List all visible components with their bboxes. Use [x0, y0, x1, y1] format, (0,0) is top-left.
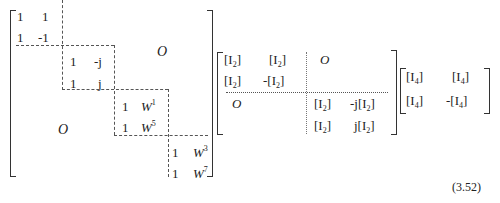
m1-b3-r2-c1: 1: [122, 121, 129, 134]
m1-b1-r2-c2: -1: [38, 31, 49, 44]
matrix-2-right-bracket: [391, 50, 397, 135]
m2-r4-c4: j[I2]: [354, 119, 375, 132]
m1-b4-r1-c1: 1: [172, 146, 179, 159]
m1-b3-r1-c2: W1: [141, 100, 156, 113]
m1-zero-lower: O: [58, 123, 68, 137]
w-symbol: W: [141, 99, 152, 114]
m1-dash-h2: [62, 89, 168, 90]
m1-b4-r2-c1: 1: [172, 167, 179, 180]
w-symbol: W: [193, 145, 204, 160]
m2-r1-c1: [I2]: [224, 53, 241, 66]
m1-b2-r1-c2: -j: [94, 55, 102, 68]
w-symbol: W: [141, 120, 152, 135]
m3-r1-c2: [I4]: [452, 70, 469, 83]
m2-r2-c1: [I2]: [224, 74, 241, 87]
m1-b4-r2-c2: W7: [193, 167, 208, 180]
m1-b2-r1-c1: 1: [70, 55, 77, 68]
w-exponent: 5: [152, 119, 156, 128]
m1-b1-r1-c1: 1: [17, 10, 24, 23]
m1-zero-upper: O: [157, 45, 167, 59]
m2-dash-h: [226, 92, 388, 93]
m2-r2-c2: -[I2]: [263, 74, 284, 87]
m1-b3-r2-c2: W5: [141, 121, 156, 134]
m2-dash-v: [306, 52, 307, 134]
matrix-2-left-bracket: [217, 52, 223, 135]
m1-b3-r1-c1: 1: [122, 100, 129, 113]
matrix-3-right-bracket: [484, 68, 490, 114]
m2-r3-c3: [I2]: [314, 97, 331, 110]
m2-zero-lower: O: [232, 97, 241, 110]
m3-r2-c1: [I4]: [406, 94, 423, 107]
m2-zero-upper: O: [320, 53, 329, 66]
m2-r1-c2: [I2]: [269, 53, 286, 66]
m2-r4-c3: [I2]: [314, 119, 331, 132]
w-exponent: 1: [152, 98, 156, 107]
m1-dash-h3: [114, 135, 208, 136]
m1-b4-r1-c2: W3: [193, 146, 208, 159]
w-symbol: W: [193, 166, 204, 181]
m1-b1-r2-c1: 1: [17, 31, 24, 44]
w-exponent: 3: [204, 144, 208, 153]
matrix-1-left-bracket: [10, 10, 16, 177]
m3-r2-c2: -[I4]: [446, 94, 467, 107]
m1-dash-v2: [114, 45, 115, 135]
m1-b1-r1-c2: 1: [42, 10, 49, 23]
m3-r1-c1: [I4]: [406, 70, 423, 83]
w-exponent: 7: [204, 165, 208, 174]
m1-dash-h1: [16, 45, 114, 46]
equation-number: (3.52): [452, 181, 481, 193]
m1-dash-v3: [168, 89, 169, 177]
m2-r3-c4: -j[I2]: [350, 97, 375, 110]
